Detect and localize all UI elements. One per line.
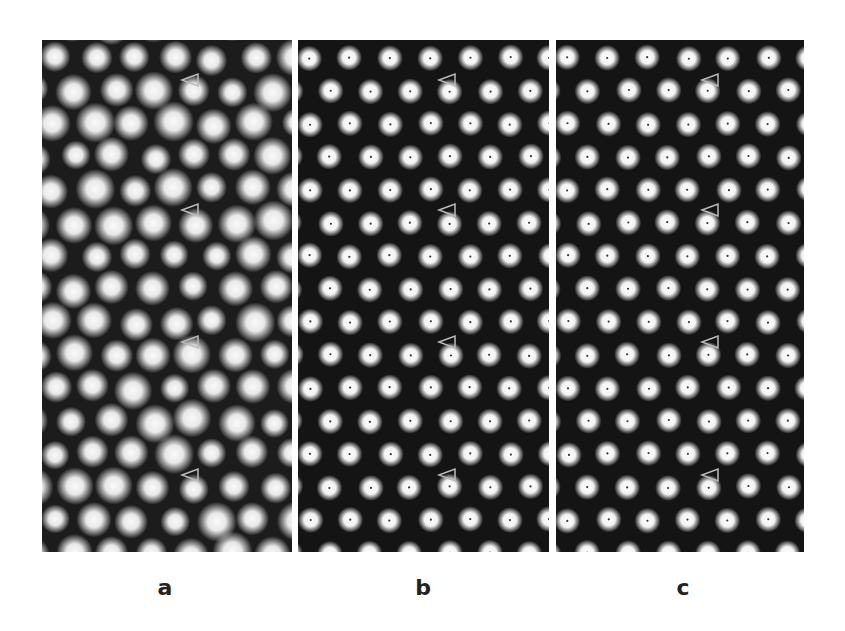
lattice-spot [356,540,382,552]
lattice-spot [774,540,800,552]
lattice-spot [94,270,129,305]
lattice-spot [276,40,292,76]
lattice-spot [260,270,292,304]
lattice-spot [119,238,150,269]
lattice-spot [556,210,561,236]
lattice-spot [196,108,232,144]
lattice-spot [656,540,682,552]
lattice-spot [217,77,247,107]
lattice-spot [217,138,250,171]
lattice-spot [153,101,194,142]
lattice-spot [136,537,168,552]
lattice-spot [795,442,804,468]
lattice-spot [556,276,561,302]
lattice-spot [76,369,109,402]
lattice-spot [298,143,303,169]
lattice-spot [298,540,303,552]
lattice-spot [795,242,804,268]
lattice-spot [538,243,549,269]
lattice-spot [76,435,109,468]
lattice-spot [217,40,248,41]
lattice-spot [298,341,304,367]
lattice-spot [536,45,549,71]
lattice-spot [298,473,303,499]
lattice-spot [178,271,208,301]
lattice-spot [437,540,463,552]
lattice-spot [154,434,194,474]
lattice-spot [260,409,289,438]
lattice-spot [260,339,290,369]
panel-a-micrograph [42,40,292,552]
lattice-spot [55,40,90,42]
lattice-spot [153,168,192,207]
lattice-spot [160,373,190,403]
lattice-spot [42,340,52,372]
lattice-spot [114,435,149,470]
lattice-spot [94,206,133,245]
lattice-spot [42,371,72,403]
lattice-spot [516,541,542,552]
lattice-spot [82,242,113,273]
lattice-spot [113,105,149,141]
lattice-spot [42,74,48,103]
lattice-spot [173,399,212,438]
lattice-spot [76,302,112,338]
lattice-spot [197,438,227,468]
lattice-spot [235,169,271,205]
lattice-spot [135,338,171,374]
lattice-spot [120,308,153,341]
lattice-spot [277,502,292,541]
lattice-spot [218,471,250,503]
lattice-spot [277,438,292,468]
lattice-spot [536,375,549,401]
lattice-spot [159,41,192,74]
lattice-spot [615,540,641,552]
lattice-spot [135,204,172,241]
lattice-spot [95,536,128,552]
lattice-spot [135,271,170,306]
lattice-spot [298,209,302,235]
lattice-spot [56,334,93,371]
lattice-spot [556,541,561,552]
lattice-spot [56,467,94,505]
lattice-spot [95,466,133,504]
lattice-spot [196,369,231,404]
lattice-spot [796,308,804,334]
lattice-spot [56,534,92,552]
lattice-spot [794,375,804,401]
panel-label-a: a [158,575,173,600]
lattice-spot [42,271,52,304]
lattice-spot [537,110,549,136]
lattice-spot [75,169,115,209]
panel-label-c: c [676,575,689,600]
panel-label-b: b [415,575,431,600]
lattice-spot [56,207,93,244]
lattice-spot [42,467,54,506]
lattice-spot [100,73,134,107]
lattice-spot [114,505,148,539]
lattice-spot [42,105,71,142]
lattice-spot [114,372,153,411]
lattice-spot [178,208,213,243]
lattice-spot [796,176,804,202]
lattice-spot [298,408,303,434]
lattice-spot [172,335,211,374]
lattice-spot [119,175,151,207]
lattice-spot [236,502,269,535]
lattice-spot [537,177,549,203]
lattice-spot [95,403,129,437]
lattice-spot [276,368,292,404]
lattice-spot [537,441,549,467]
lattice-spot [556,144,561,170]
lattice-spot [42,143,51,175]
lattice-spot [136,471,170,505]
lattice-spot [160,507,190,537]
lattice-spot [253,200,292,240]
lattice-spot [235,103,273,141]
lattice-spot [94,136,129,171]
lattice-spot [196,172,227,203]
lattice-spot [253,137,291,175]
lattice-spot [178,138,210,170]
lattice-spot [42,404,48,438]
lattice-spot [173,538,209,552]
